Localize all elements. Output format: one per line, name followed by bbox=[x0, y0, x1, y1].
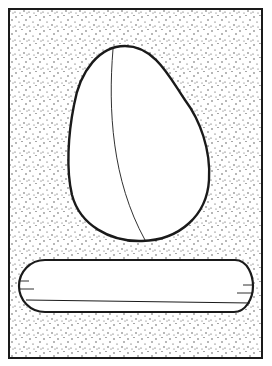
rounded-bar bbox=[19, 260, 253, 312]
diagram-canvas bbox=[0, 0, 272, 366]
diagram-svg bbox=[0, 0, 272, 366]
